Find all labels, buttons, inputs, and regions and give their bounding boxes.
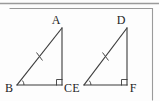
vertex-label-a: A (52, 13, 61, 27)
geometry-diagram: A B C D E F (0, 0, 160, 101)
triangle-abc: A B C (5, 13, 72, 95)
angle-arc-e (89, 81, 91, 85)
vertex-label-b: B (5, 81, 13, 95)
vertex-label-e: E (72, 81, 79, 95)
geometry-figure-container: A B C D E F (0, 0, 160, 101)
angle-arc-b (23, 81, 25, 85)
triangle-def: D E F (72, 13, 136, 95)
vertex-label-f: F (130, 81, 137, 95)
vertex-label-d: D (117, 13, 126, 27)
vertex-label-c: C (64, 81, 72, 95)
